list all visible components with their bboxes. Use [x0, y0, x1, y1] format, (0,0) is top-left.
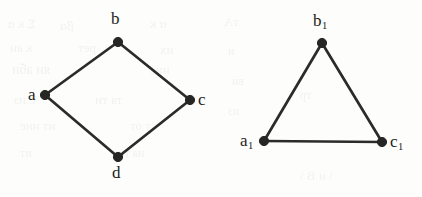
graph-vertex-c1: [377, 137, 386, 146]
vertex-label-base: b: [111, 9, 120, 28]
vertex-label-base: a: [28, 85, 36, 104]
graph-vertex-a: [40, 90, 49, 99]
vertex-label-a1: a1: [240, 132, 253, 149]
graph-edge-a1-b1: [264, 43, 322, 141]
edges-group: [45, 42, 382, 157]
vertex-label-subscript: 1: [248, 140, 253, 151]
vertices-group: [40, 37, 386, 161]
graph-edge-a1-c1: [264, 141, 382, 142]
vertex-label-c1: c1: [390, 133, 403, 150]
vertex-label-c: c: [198, 91, 206, 108]
graph-edge-b1-c1: [322, 43, 382, 142]
graph-edge-a-b: [45, 42, 118, 95]
graph-vertex-d: [113, 152, 122, 161]
figure-canvas: Σ к αβαα кк анретихяи абинисс изтя тиит …: [0, 0, 422, 197]
vertex-label-base: b: [313, 11, 322, 30]
graph-vertex-b1: [317, 38, 326, 47]
vertex-label-b: b: [111, 10, 120, 27]
graph-vertex-c: [185, 95, 194, 104]
vertex-label-base: d: [112, 163, 121, 182]
vertex-label-d: d: [112, 164, 121, 181]
graph-drawing-surface: [0, 0, 422, 197]
vertex-label-subscript: 1: [322, 20, 327, 31]
vertex-label-subscript: 1: [398, 141, 403, 152]
graph-edge-b-c: [118, 42, 190, 100]
graph-edge-d-a: [45, 95, 118, 157]
graph-edge-c-d: [118, 100, 190, 157]
vertex-label-base: c: [390, 132, 398, 151]
vertex-label-base: a: [240, 131, 248, 150]
graph-vertex-a1: [259, 136, 268, 145]
graph-vertex-b: [113, 37, 122, 46]
vertex-label-a: a: [28, 86, 36, 103]
vertex-label-b1: b1: [313, 12, 327, 29]
vertex-label-base: c: [198, 90, 206, 109]
